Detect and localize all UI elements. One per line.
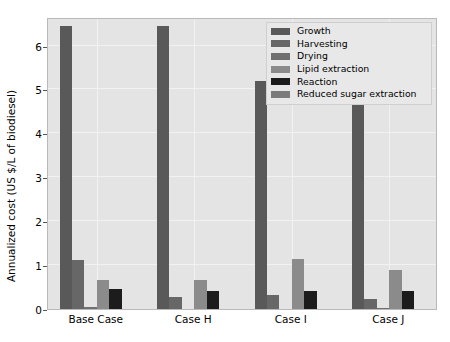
x-axis-tick-labels: Base CaseCase HCase ICase J bbox=[47, 313, 437, 333]
x-tick-label: Case J bbox=[372, 313, 404, 325]
gridline-horizontal bbox=[48, 132, 436, 133]
legend-label: Reduced sugar extraction bbox=[297, 89, 417, 99]
y-tick-label: 0 bbox=[22, 305, 42, 315]
legend-label: Reaction bbox=[297, 77, 337, 87]
legend-item: Reaction bbox=[271, 75, 428, 88]
bar bbox=[194, 280, 206, 309]
legend-swatch-icon bbox=[271, 40, 290, 47]
y-tick-label: 6 bbox=[22, 42, 42, 52]
y-axis-tick-labels: 0123456 bbox=[22, 0, 42, 342]
legend-item: Growth bbox=[271, 25, 428, 38]
bar bbox=[60, 26, 72, 309]
y-tick-mark bbox=[43, 266, 47, 267]
x-tick-label: Case I bbox=[275, 313, 307, 325]
y-tick-label: 1 bbox=[22, 261, 42, 271]
y-tick-label: 4 bbox=[22, 129, 42, 139]
bar bbox=[109, 289, 121, 309]
legend-label: Growth bbox=[297, 26, 331, 36]
legend-item: Drying bbox=[271, 50, 428, 63]
legend-swatch-icon bbox=[271, 53, 290, 60]
y-tick-label: 5 bbox=[22, 85, 42, 95]
y-axis-label: Annualized cost (US $/L of biodiesel) bbox=[0, 40, 22, 332]
bar bbox=[377, 308, 389, 309]
y-tick-mark bbox=[43, 47, 47, 48]
legend-swatch-icon bbox=[271, 66, 290, 73]
legend-label: Drying bbox=[297, 51, 328, 61]
x-tick-label: Base Case bbox=[68, 313, 123, 325]
legend-swatch-icon bbox=[271, 28, 290, 35]
gridline-horizontal bbox=[48, 264, 436, 265]
bar bbox=[84, 307, 96, 309]
bar bbox=[97, 280, 109, 309]
gridline-horizontal bbox=[48, 176, 436, 177]
bar bbox=[352, 94, 364, 309]
legend-item: Reduced sugar extraction bbox=[271, 88, 428, 101]
y-tick-mark bbox=[43, 222, 47, 223]
x-tick-label: Case H bbox=[175, 313, 212, 325]
gridline-horizontal bbox=[48, 220, 436, 221]
bar bbox=[389, 270, 401, 309]
gridline-vertical bbox=[97, 19, 98, 309]
bar bbox=[207, 291, 219, 309]
legend-item: Harvesting bbox=[271, 38, 428, 51]
bar bbox=[169, 297, 181, 309]
legend-swatch-icon bbox=[271, 91, 290, 98]
y-tick-mark bbox=[43, 178, 47, 179]
legend-label: Lipid extraction bbox=[297, 64, 369, 74]
bar bbox=[157, 26, 169, 309]
bar bbox=[267, 295, 279, 309]
gridline-vertical bbox=[194, 19, 195, 309]
y-tick-label: 3 bbox=[22, 173, 42, 183]
bar bbox=[304, 291, 316, 309]
bar bbox=[402, 291, 414, 309]
legend-item: Lipid extraction bbox=[271, 63, 428, 76]
y-tick-label: 2 bbox=[22, 217, 42, 227]
bar-chart-figure: Annualized cost (US $/L of biodiesel) 01… bbox=[0, 0, 450, 342]
legend-swatch-icon bbox=[271, 78, 290, 85]
bar bbox=[72, 260, 84, 309]
bar bbox=[364, 299, 376, 309]
y-tick-mark bbox=[43, 90, 47, 91]
y-tick-mark bbox=[43, 310, 47, 311]
y-tick-mark bbox=[43, 134, 47, 135]
bar bbox=[292, 259, 304, 309]
legend-label: Harvesting bbox=[297, 39, 348, 49]
chart-legend: GrowthHarvestingDryingLipid extractionRe… bbox=[266, 22, 432, 105]
bar bbox=[255, 81, 267, 309]
